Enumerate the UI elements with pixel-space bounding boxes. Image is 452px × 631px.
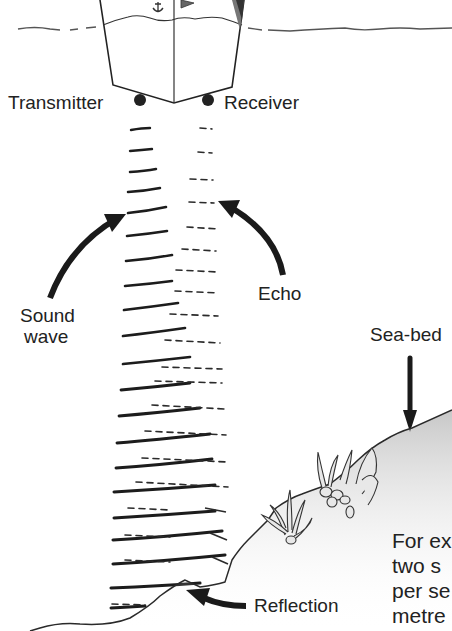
- echo-sounder-diagram: Transmitter Receiver Sound wave Echo Sea…: [0, 0, 452, 631]
- echo-label: Echo: [258, 284, 301, 303]
- sea-bed-terrain: [30, 410, 452, 631]
- reflection-label: Reflection: [254, 596, 339, 615]
- boat-hull-icon: [100, 0, 244, 103]
- receiver-dot-icon: [202, 94, 214, 106]
- transmitter-dot-icon: [134, 94, 146, 106]
- sound-wave-label-line2: wave: [20, 326, 75, 347]
- echo-arrow-icon: [218, 200, 283, 275]
- caption-line-1: For ex: [392, 528, 452, 553]
- caption-line-3: per se: [392, 578, 452, 603]
- caption-line-4: metre: [392, 603, 452, 628]
- sea-bed-arrow-icon: [403, 358, 417, 432]
- sea-bed-label: Sea-bed: [370, 325, 442, 344]
- receiver-label: Receiver: [224, 93, 299, 112]
- sound-wave-label-line1: Sound: [20, 305, 75, 326]
- sound-wave-arrow-icon: [50, 214, 126, 298]
- caption-line-2: two s: [392, 553, 452, 578]
- caption-text-fragment: For ex two s per se metre: [392, 528, 452, 628]
- sound-wave-label: Sound wave: [20, 305, 75, 347]
- transmitter-label: Transmitter: [8, 93, 103, 112]
